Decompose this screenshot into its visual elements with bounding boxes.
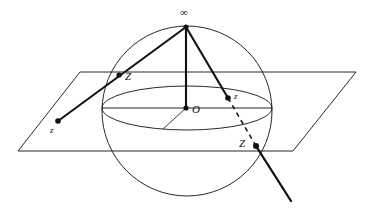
label-sphere-point-left: Z [125, 71, 131, 82]
label-north-pole-infinity: ∞ [180, 7, 188, 18]
sphere-point-right-marker [225, 95, 231, 101]
label-plane-point-right: Z [239, 138, 245, 149]
projection-ray-left [58, 27, 186, 121]
projection-ray-right [186, 27, 228, 98]
plane-point-left-marker [55, 118, 61, 124]
riemann-sphere-drawing [0, 0, 374, 210]
projection-ray-right-extension [256, 146, 291, 201]
sphere-center-point [183, 105, 188, 110]
plane-point-right-marker [253, 143, 259, 149]
label-sphere-point-right: z [234, 92, 238, 101]
label-plane-point-left: z [50, 126, 54, 135]
north-pole-point [183, 24, 188, 29]
sphere-point-left-marker [116, 72, 121, 77]
label-sphere-center-origin: O [192, 104, 200, 115]
riemann-sphere-figure: ∞ Z z O z Z [0, 0, 374, 210]
equatorial-radius-line [163, 108, 186, 129]
